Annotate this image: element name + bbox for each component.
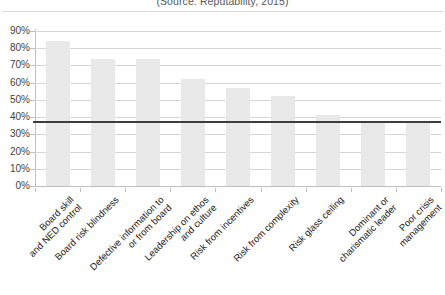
x-axis-labels: Board skill and NED controlBoard risk bl… (35, 188, 441, 293)
x-axis-tick-mark (306, 188, 307, 192)
bar-slot (261, 31, 306, 186)
bar-slot (306, 31, 351, 186)
x-axis-tick-mark (125, 188, 126, 192)
bar-series (35, 31, 441, 186)
caption-divider (2, 11, 443, 12)
x-axis-label: Risk from complexity (208, 194, 301, 287)
bar-chart: (Source: Reputability, 2015) 0%10%20%30%… (0, 0, 445, 295)
y-axis-tick-label: 20% (0, 146, 30, 157)
source-caption: (Source: Reputability, 2015) (0, 0, 445, 7)
y-axis-tick-label: 30% (0, 128, 30, 139)
bar[interactable] (406, 122, 430, 186)
y-axis-tick-label: 40% (0, 111, 30, 122)
x-axis-tick-mark (261, 188, 262, 192)
bar-slot (80, 31, 125, 186)
bar[interactable] (316, 115, 340, 186)
x-axis-tick-mark (441, 188, 442, 192)
bar[interactable] (226, 88, 250, 186)
bar[interactable] (181, 79, 205, 186)
gridline (35, 186, 441, 187)
y-axis-tick-label: 50% (0, 94, 30, 105)
x-axis-tick-mark (215, 188, 216, 192)
y-axis-tick-label: 60% (0, 77, 30, 88)
bar[interactable] (271, 96, 295, 186)
threshold-line (33, 121, 441, 123)
bar[interactable] (46, 41, 70, 186)
x-axis-tick-mark (170, 188, 171, 192)
x-axis-tick-mark (396, 188, 397, 192)
plot-area (35, 31, 441, 186)
bar[interactable] (361, 122, 385, 186)
bar-slot (215, 31, 260, 186)
x-axis-tick-mark (35, 188, 36, 192)
bar-slot (170, 31, 215, 186)
bar-slot (351, 31, 396, 186)
y-axis-tick-label: 0% (0, 180, 30, 191)
y-axis-tick-label: 10% (0, 163, 30, 174)
y-axis-tick-label: 80% (0, 42, 30, 53)
x-axis-tick-mark (351, 188, 352, 192)
bar-slot (35, 31, 80, 186)
y-axis-tick-label: 70% (0, 59, 30, 70)
x-axis-tick-mark (80, 188, 81, 192)
bar-slot (125, 31, 170, 186)
y-axis-tick-label: 90% (0, 25, 30, 36)
bar-slot (396, 31, 441, 186)
